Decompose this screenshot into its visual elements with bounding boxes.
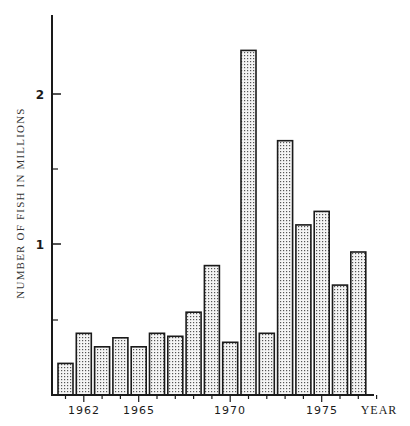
- bar-1965: [131, 347, 146, 395]
- y-tick-label-1: 1: [36, 238, 44, 252]
- bar-1961: [58, 363, 73, 395]
- bar-1973: [278, 141, 293, 395]
- bar-1967: [168, 336, 183, 395]
- bar-1968: [186, 312, 201, 395]
- bar-1972: [259, 333, 274, 395]
- bar-1975: [314, 211, 329, 395]
- bar-1962: [76, 333, 91, 395]
- bar-1966: [150, 333, 165, 395]
- x-tick-label-1962: 1962: [68, 404, 100, 417]
- bar-1971: [241, 50, 256, 395]
- y-axis-title: NUMBER OF FISH IN MILLIONS: [14, 107, 26, 298]
- bar-1974: [296, 225, 311, 395]
- y-tick-label-2: 2: [36, 88, 44, 102]
- bar-1970: [223, 342, 238, 395]
- bars-group: [58, 50, 366, 395]
- bar-1964: [113, 338, 128, 395]
- bar-1969: [204, 266, 219, 395]
- x-tick-label-1970: 1970: [214, 404, 246, 417]
- x-tick-label-1965: 1965: [123, 404, 155, 417]
- x-axis-title: YEAR: [361, 403, 398, 417]
- x-tick-label-1975: 1975: [306, 404, 338, 417]
- bar-1976: [333, 285, 348, 395]
- bar-chart: NUMBER OF FISH IN MILLIONS 2 1 1962 1965…: [0, 0, 410, 426]
- x-ticks-group: [66, 395, 377, 402]
- bar-1977: [351, 252, 366, 395]
- bar-1963: [95, 347, 110, 395]
